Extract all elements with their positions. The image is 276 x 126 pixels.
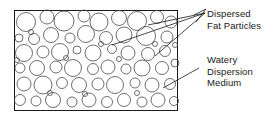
callout-watery-dispersion-medium: Watery Dispersion Medium bbox=[207, 54, 253, 89]
callout-line-text: Dispersion bbox=[207, 66, 253, 78]
callout-line-text: Fat Particles bbox=[207, 20, 261, 32]
leader-arrow-head-icon bbox=[194, 9, 206, 22]
callout-line-text: Watery bbox=[207, 54, 253, 66]
emulsion-figure: Dispersed Fat Particles Watery Dispersio… bbox=[0, 0, 276, 126]
callout-dispersed-fat-particles: Dispersed Fat Particles bbox=[207, 8, 261, 31]
callout-line-text: Medium bbox=[207, 77, 253, 89]
callout-line-text: Dispersed bbox=[207, 8, 261, 20]
